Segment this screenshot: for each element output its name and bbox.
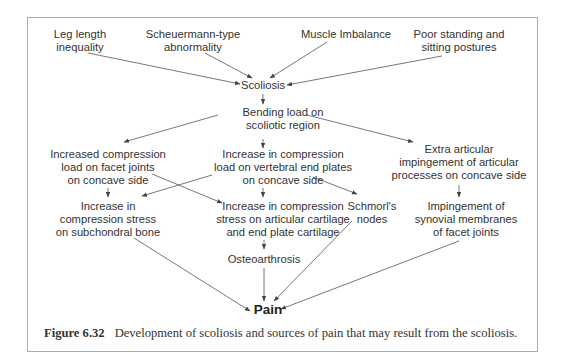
figure-caption-text: Development of scoliosis and sources of … <box>115 326 518 340</box>
arrow-muscle-to-scoliosis <box>270 42 327 78</box>
arrow-synovial-to-pain <box>281 241 459 309</box>
node-subchondral-stress: Increase in compression stress on subcho… <box>56 200 161 239</box>
figure-label: Figure 6.32 <box>44 326 105 340</box>
node-scheuermann-abnormality: Scheuermann-type abnormality <box>146 28 241 54</box>
node-cartilage-stress: Increase in compression stress on articu… <box>216 200 350 239</box>
node-pain: Pain <box>254 303 283 316</box>
node-schmorls-nodes: Schmorl's nodes <box>348 200 397 226</box>
arrow-posture-to-scoliosis <box>287 56 442 85</box>
arrow-subchondral-to-pain <box>134 238 250 311</box>
arrow-leg-to-scoliosis <box>88 53 240 84</box>
node-synovial-impingement: Impingement of synovial membranes of fac… <box>415 200 518 239</box>
node-muscle-imbalance: Muscle Imbalance <box>301 28 391 41</box>
node-poor-postures: Poor standing and sitting postures <box>414 28 505 54</box>
node-leg-length-inequality: Leg length inequality <box>54 28 106 54</box>
node-facet-compression: Increased compression load on facet join… <box>50 148 166 187</box>
node-extra-articular-impingement: Extra articular impingement of articular… <box>392 143 527 182</box>
node-scoliosis: Scoliosis <box>241 79 285 92</box>
node-osteoarthrosis: Osteoarthrosis <box>228 253 301 266</box>
arrow-scheuermann-to-scoliosis <box>205 53 252 78</box>
arrow-bending-to-facet <box>124 115 218 142</box>
node-bending-load: Bending load on scoliotic region <box>243 106 324 132</box>
figure-caption: Figure 6.32Development of scoliosis and … <box>44 326 517 341</box>
node-endplate-compression: Increase in compression load on vertebra… <box>214 148 352 187</box>
